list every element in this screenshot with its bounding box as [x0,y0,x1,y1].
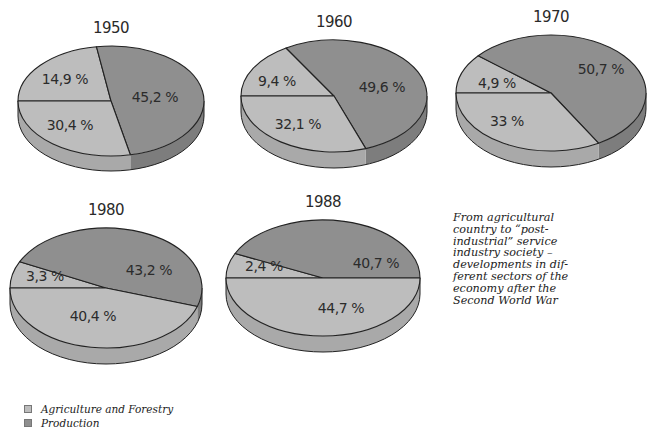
pie-1980: 19803,3 %43,2 %40,4 % [10,201,202,364]
legend-swatch-production [24,419,32,427]
caption-line: country to “post- [453,224,623,236]
label-agriculture: 9,4 % [258,73,296,89]
pie-year-title: 1970 [533,8,569,26]
label-production: 45,2 % [132,89,179,105]
pie-1950: 195014,9 %45,2 %30,4 % [18,19,204,171]
label-services: 33 % [490,113,524,129]
label-services: 40,4 % [70,308,117,324]
pie-year-title: 1988 [305,193,341,211]
pie-year-title: 1980 [88,201,124,219]
label-services: 30,4 % [47,117,94,133]
pie-1970: 19704,9 %50,7 %33 % [456,8,646,167]
label-services: 44,7 % [318,300,365,316]
legend-item-agriculture: Agriculture and Forestry [24,402,173,416]
legend-label: Production [41,417,99,429]
pie-year-title: 1960 [316,13,352,31]
label-agriculture: 2,4 % [245,258,283,274]
legend: Agriculture and Forestry Production [24,402,173,430]
label-production: 49,6 % [359,79,406,95]
legend-label: Agriculture and Forestry [41,403,173,415]
caption-line: economy after the [453,283,623,295]
label-production: 40,7 % [353,255,400,271]
caption-line: ferent sectors of the [453,271,623,283]
label-agriculture: 4,9 % [478,75,516,91]
label-agriculture: 14,9 % [42,71,89,87]
label-services: 32,1 % [275,116,322,132]
legend-swatch-agriculture [24,405,32,413]
label-production: 43,2 % [126,262,173,278]
legend-item-production: Production [24,416,173,430]
pie-year-title: 1950 [93,19,129,37]
pie-1988: 19882,4 %40,7 %44,7 % [226,193,420,352]
chart-caption: From agricultural country to “post- indu… [453,212,623,306]
caption-line: Second World War [453,295,623,307]
label-production: 50,7 % [578,61,625,77]
label-agriculture: 3,3 % [26,268,64,284]
pie-1960: 19609,4 %49,6 %32,1 % [241,13,427,168]
